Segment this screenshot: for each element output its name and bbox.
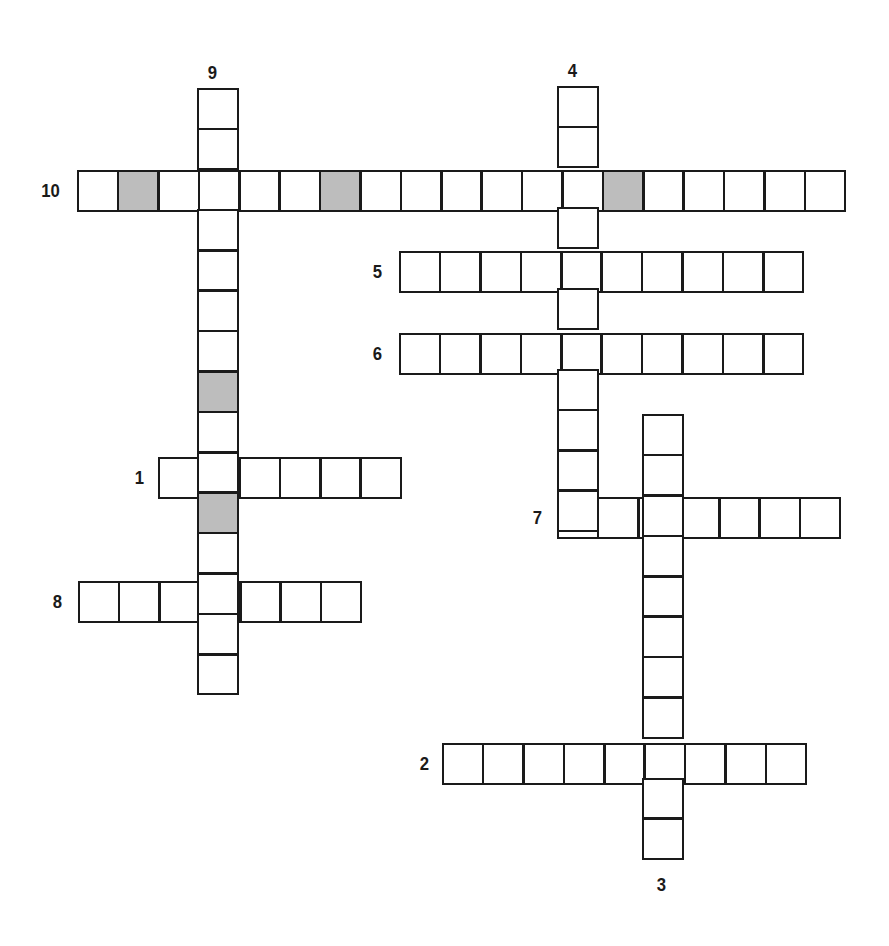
crossword-cell-5-across-10[interactable] (763, 251, 805, 293)
crossword-cell-2-across-3[interactable] (523, 743, 565, 785)
crossword-cell-9-down-2[interactable] (197, 128, 239, 170)
crossword-cell-5-across-7[interactable] (641, 251, 683, 293)
crossword-cell-10-across-6[interactable] (279, 170, 321, 212)
crossword-cell-9-down-4[interactable] (197, 209, 239, 251)
crossword-cell-3-down-1[interactable] (642, 414, 684, 456)
crossword-cell-9-down-10[interactable] (197, 452, 239, 494)
crossword-cell-10-across-16[interactable] (683, 170, 725, 212)
crossword-cell-1-across-3[interactable] (239, 457, 281, 499)
crossword-cell-9-down-12[interactable] (197, 532, 239, 574)
crossword-cell-4-down-10[interactable] (557, 450, 599, 492)
crossword-cell-4-down-4[interactable] (557, 207, 599, 249)
crossword-cell-1-across-5[interactable] (320, 457, 362, 499)
crossword-cell-10-across-7[interactable] (319, 170, 361, 212)
crossword-cell-6-across-4[interactable] (520, 333, 562, 375)
crossword-cell-8-across-3[interactable] (159, 581, 201, 623)
crossword-cell-9-down-6[interactable] (197, 290, 239, 332)
crossword-cell-6-across-2[interactable] (439, 333, 481, 375)
crossword-cell-3-down-4[interactable] (642, 535, 684, 577)
crossword-cell-10-across-2[interactable] (117, 170, 159, 212)
crossword-cell-6-across-1[interactable] (399, 333, 441, 375)
crossword-cell-3-down-2[interactable] (642, 454, 684, 496)
crossword-cell-5-across-3[interactable] (480, 251, 522, 293)
crossword-cell-3-down-8[interactable] (642, 697, 684, 739)
crossword-cell-8-across-1[interactable] (78, 581, 120, 623)
crossword-cell-3-down-6[interactable] (642, 616, 684, 658)
crossword-cell-3-down-5[interactable] (642, 576, 684, 618)
crossword-cell-10-across-11[interactable] (481, 170, 523, 212)
crossword-cell-5-across-4[interactable] (520, 251, 562, 293)
crossword-cell-10-across-14[interactable] (602, 170, 644, 212)
crossword-cell-4-down-6[interactable] (557, 288, 599, 330)
crossword-cell-3-down-3[interactable] (642, 495, 684, 537)
crossword-cell-8-across-2[interactable] (118, 581, 160, 623)
crossword-cell-9-down-15[interactable] (197, 654, 239, 696)
crossword-cell-2-across-5[interactable] (604, 743, 646, 785)
crossword-cell-9-down-5[interactable] (197, 250, 239, 292)
crossword-cell-10-across-17[interactable] (723, 170, 765, 212)
clue-number-2-across: 2 (420, 754, 429, 773)
crossword-cell-5-across-2[interactable] (439, 251, 481, 293)
crossword-cell-10-across-12[interactable] (521, 170, 563, 212)
crossword-cell-8-across-5[interactable] (240, 581, 282, 623)
crossword-cell-2-across-4[interactable] (563, 743, 605, 785)
crossword-cell-1-across-4[interactable] (279, 457, 321, 499)
crossword-cell-10-across-4[interactable] (198, 170, 240, 212)
crossword-cell-3-down-7[interactable] (642, 656, 684, 698)
crossword-cell-8-across-6[interactable] (280, 581, 322, 623)
crossword-cell-9-down-11[interactable] (197, 492, 239, 534)
crossword-cell-5-across-1[interactable] (399, 251, 441, 293)
crossword-cell-6-across-7[interactable] (641, 333, 683, 375)
crossword-cell-2-across-7[interactable] (684, 743, 726, 785)
crossword-cell-2-across-8[interactable] (725, 743, 767, 785)
clue-number-5-across: 5 (373, 262, 382, 281)
crossword-cell-9-down-9[interactable] (197, 411, 239, 453)
crossword-cell-10-across-18[interactable] (764, 170, 806, 212)
crossword-cell-2-across-9[interactable] (765, 743, 807, 785)
crossword-cell-4-down-1[interactable] (557, 86, 599, 128)
crossword-cell-7-across-7[interactable] (799, 497, 841, 539)
crossword-cell-1-across-6[interactable] (360, 457, 402, 499)
crossword-cell-9-down-14[interactable] (197, 613, 239, 655)
crossword-cell-5-across-9[interactable] (722, 251, 764, 293)
crossword-cell-5-across-6[interactable] (601, 251, 643, 293)
clue-number-4-down: 4 (568, 61, 577, 80)
crossword-cell-6-across-8[interactable] (682, 333, 724, 375)
crossword-cell-6-across-10[interactable] (763, 333, 805, 375)
crossword-cell-3-down-10[interactable] (642, 778, 684, 820)
crossword-cell-6-across-9[interactable] (722, 333, 764, 375)
crossword-cell-10-across-3[interactable] (158, 170, 200, 212)
crossword-cell-10-across-9[interactable] (400, 170, 442, 212)
crossword-cell-4-down-2[interactable] (557, 126, 599, 168)
crossword-cell-10-across-10[interactable] (441, 170, 483, 212)
crossword-cell-5-across-8[interactable] (682, 251, 724, 293)
clue-number-1-across: 1 (135, 468, 144, 487)
crossword-cell-10-across-13[interactable] (562, 170, 604, 212)
crossword-cell-7-across-4[interactable] (678, 497, 720, 539)
crossword-cell-10-across-8[interactable] (360, 170, 402, 212)
crossword-cell-3-down-11[interactable] (642, 818, 684, 860)
crossword-cell-9-down-7[interactable] (197, 330, 239, 372)
clue-number-6-across: 6 (373, 344, 382, 363)
crossword-cell-6-across-6[interactable] (601, 333, 643, 375)
crossword-cell-4-down-8[interactable] (557, 369, 599, 411)
crossword-cell-10-across-15[interactable] (643, 170, 685, 212)
crossword-cell-2-across-1[interactable] (442, 743, 484, 785)
clue-number-7-across: 7 (533, 508, 542, 527)
crossword-cell-2-across-2[interactable] (482, 743, 524, 785)
crossword-cell-5-across-5[interactable] (561, 251, 603, 293)
crossword-cell-8-across-7[interactable] (320, 581, 362, 623)
crossword-cell-4-down-9[interactable] (557, 409, 599, 451)
crossword-cell-7-across-5[interactable] (719, 497, 761, 539)
crossword-cell-10-across-19[interactable] (804, 170, 846, 212)
crossword-cell-1-across-1[interactable] (158, 457, 200, 499)
crossword-cell-9-down-1[interactable] (197, 88, 239, 130)
crossword-cell-10-across-1[interactable] (77, 170, 119, 212)
crossword-cell-4-down-11[interactable] (557, 490, 599, 532)
crossword-cell-9-down-8[interactable] (197, 371, 239, 413)
crossword-cell-7-across-6[interactable] (759, 497, 801, 539)
crossword-cell-9-down-13[interactable] (197, 573, 239, 615)
crossword-cell-7-across-2[interactable] (597, 497, 639, 539)
crossword-cell-6-across-3[interactable] (480, 333, 522, 375)
crossword-cell-10-across-5[interactable] (239, 170, 281, 212)
